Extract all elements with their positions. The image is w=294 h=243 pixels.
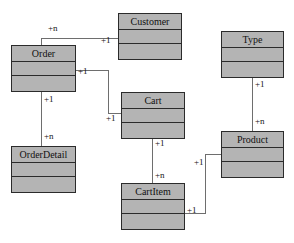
class-name-orderdetail: OrderDetail [12,147,75,163]
class-operations-type [222,62,283,77]
class-operations-cart [122,123,184,138]
class-name-product: Product [222,132,283,148]
class-box-cart[interactable]: Cart [121,92,185,139]
edge-type-product [252,78,253,132]
multiplicity-order-cart-1: +1 [78,66,88,76]
class-operations-orderdetail [12,177,75,192]
class-name-order: Order [12,46,75,62]
class-attributes-cart [122,109,184,123]
multiplicity-order-orderdetail-1: +1 [44,94,54,104]
class-attributes-order [12,62,75,76]
class-name-type: Type [222,32,283,48]
class-box-product[interactable]: Product [221,131,284,178]
class-name-cartitem: CartItem [122,184,184,200]
edge-order-cart-vertical [108,70,109,114]
class-box-orderdetail[interactable]: OrderDetail [11,146,76,193]
class-attributes-customer [119,30,181,44]
multiplicity-product-cartitem-1: +1 [194,157,204,167]
class-box-cartitem[interactable]: CartItem [121,183,185,230]
edge-product-cartitem-vertical [205,154,206,214]
multiplicity-order-customer-1: +1 [101,35,111,45]
class-attributes-orderdetail [12,163,75,177]
class-diagram-canvas: Order Customer Type Cart OrderDetail Pro… [0,0,294,243]
class-operations-product [222,162,283,177]
class-operations-order [12,76,75,91]
multiplicity-order-orderdetail-n: +n [44,131,54,141]
multiplicity-cart-left-1: +1 [106,113,116,123]
class-attributes-product [222,148,283,162]
multiplicity-type-product-1: +1 [255,79,265,89]
class-attributes-type [222,48,283,62]
multiplicity-cartitem-product-1: +1 [187,205,197,215]
multiplicity-type-product-n: +n [255,116,265,126]
class-attributes-cartitem [122,200,184,214]
edge-product-cartitem-horizontal-top [205,154,222,155]
class-box-order[interactable]: Order [11,45,76,92]
multiplicity-cart-cartitem-n: +n [155,170,165,180]
class-operations-customer [119,44,181,59]
class-operations-cartitem [122,214,184,229]
class-name-cart: Cart [122,93,184,109]
class-name-customer: Customer [119,14,181,30]
class-box-type[interactable]: Type [221,31,284,78]
class-box-customer[interactable]: Customer [118,13,182,60]
edge-order-orderdetail [41,92,42,147]
multiplicity-cart-cartitem-1: +1 [155,138,165,148]
multiplicity-order-customer-n: +n [48,23,58,33]
edge-cart-cartitem [152,139,153,184]
